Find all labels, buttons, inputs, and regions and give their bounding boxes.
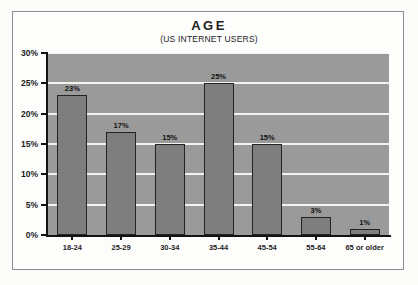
y-axis-label: 30% — [21, 49, 38, 57]
x-axis-tick — [315, 235, 317, 240]
x-axis-tick — [71, 235, 73, 240]
y-axis-label: 10% — [21, 170, 38, 178]
y-axis-tick — [41, 82, 47, 84]
x-axis-tick — [218, 235, 220, 240]
bar — [204, 83, 234, 235]
bar-value-label: 17% — [101, 122, 141, 130]
y-axis-label: 25% — [21, 79, 38, 87]
y-axis-label: 5% — [26, 201, 38, 209]
bar — [155, 144, 185, 235]
gridline — [48, 53, 389, 54]
bar — [252, 144, 282, 235]
x-axis-tick — [120, 235, 122, 240]
chart-frame: AGE (US INTERNET USERS) 0%5%10%15%20%25%… — [12, 11, 404, 270]
y-axis-tick — [41, 113, 47, 115]
y-axis-tick — [41, 143, 47, 145]
bar — [106, 132, 136, 235]
bar-value-label: 3% — [296, 207, 336, 215]
x-axis-tick — [364, 235, 366, 240]
bar-value-label: 25% — [199, 73, 239, 81]
title-block: AGE (US INTERNET USERS) — [13, 19, 405, 45]
x-axis-tick — [169, 235, 171, 240]
bar — [301, 217, 331, 235]
bar-value-label: 1% — [345, 219, 385, 227]
y-axis-tick — [41, 52, 47, 54]
y-axis-label: 20% — [21, 110, 38, 118]
x-axis-label: 65 or older — [335, 243, 395, 252]
y-axis-label: 0% — [26, 231, 38, 239]
x-axis-tick — [266, 235, 268, 240]
page-title: AGE — [13, 19, 405, 33]
bar-value-label: 15% — [150, 134, 190, 142]
bar-value-label: 23% — [52, 85, 92, 93]
bar — [57, 95, 87, 235]
y-axis-label: 15% — [21, 140, 38, 148]
chart-subtitle: (US INTERNET USERS) — [13, 34, 405, 45]
plot-wrapper: 0%5%10%15%20%25%30%23%18-2417%25-2915%30… — [48, 53, 389, 235]
y-axis-tick — [41, 234, 47, 236]
y-axis-tick — [41, 173, 47, 175]
scanned-page: AGE (US INTERNET USERS) 0%5%10%15%20%25%… — [0, 0, 418, 285]
y-axis-tick — [41, 204, 47, 206]
bar-value-label: 15% — [247, 134, 287, 142]
